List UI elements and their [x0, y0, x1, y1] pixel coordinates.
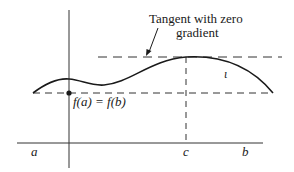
- axis-label-c: c: [183, 144, 189, 159]
- annotation-line1: Tangent with zero: [149, 11, 243, 26]
- point-label: f(a) = f(b): [73, 94, 126, 109]
- arrowhead-icon: [146, 49, 152, 56]
- rolle-theorem-diagram: Tangent with zero gradient f(a) = f(b) ι…: [0, 0, 294, 172]
- annotation-line2: gradient: [176, 25, 219, 40]
- axis-label-a: a: [31, 144, 38, 159]
- axis-label-b: b: [242, 144, 249, 159]
- annotation-arrow: [149, 28, 158, 52]
- curve-label: ι: [224, 67, 227, 81]
- point-marker: [66, 90, 71, 95]
